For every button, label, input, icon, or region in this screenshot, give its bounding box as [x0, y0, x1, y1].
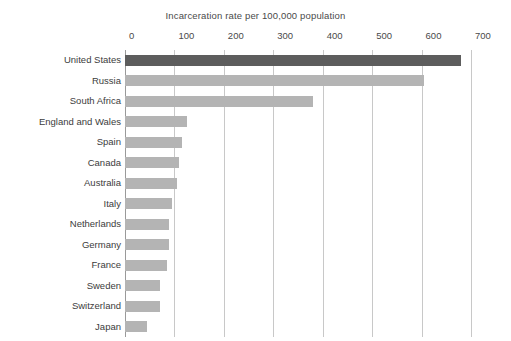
bar-canada: [125, 157, 179, 168]
y-label-england-and-wales: England and Wales: [39, 117, 121, 127]
y-label-australia: Australia: [84, 178, 121, 188]
bar-australia: [125, 178, 177, 189]
bar-switzerland: [125, 301, 160, 312]
x-tick-label-100: 100: [178, 30, 194, 41]
x-tick-label-600: 600: [426, 30, 442, 41]
x-tick-label-500: 500: [376, 30, 392, 41]
gridline-700: [471, 50, 472, 337]
bar-sweden: [125, 280, 160, 291]
bar-netherlands: [125, 219, 169, 230]
plot-area: [125, 50, 471, 337]
x-tick-label-300: 300: [277, 30, 293, 41]
bar-spain: [125, 137, 182, 148]
x-tick-label-0: 0: [129, 30, 134, 41]
bar-germany: [125, 239, 169, 250]
x-axis-tick-labels: 0100200300400500600700: [125, 30, 471, 48]
incarceration-rate-bar-chart: Incarceration rate per 100,000 populatio…: [0, 0, 511, 341]
x-tick-label-200: 200: [228, 30, 244, 41]
y-label-russia: Russia: [92, 76, 121, 86]
y-label-sweden: Sweden: [87, 281, 121, 291]
bar-italy: [125, 198, 172, 209]
x-tick-label-400: 400: [327, 30, 343, 41]
y-label-south-africa: South Africa: [70, 96, 121, 106]
bar-series: [125, 50, 471, 337]
chart-title: Incarceration rate per 100,000 populatio…: [0, 10, 511, 21]
bar-united-states: [125, 55, 461, 66]
bar-japan: [125, 321, 147, 332]
y-label-france: France: [91, 260, 121, 270]
bar-south-africa: [125, 96, 313, 107]
y-label-germany: Germany: [82, 240, 121, 250]
bar-russia: [125, 75, 424, 86]
y-axis-category-labels: United StatesRussiaSouth AfricaEngland a…: [0, 50, 121, 337]
y-label-spain: Spain: [97, 137, 121, 147]
y-label-japan: Japan: [95, 322, 121, 332]
x-tick-label-700: 700: [475, 30, 491, 41]
y-label-switzerland: Switzerland: [72, 301, 121, 311]
bar-france: [125, 260, 167, 271]
y-label-united-states: United States: [64, 55, 121, 65]
bar-england-and-wales: [125, 116, 187, 127]
y-label-netherlands: Netherlands: [70, 219, 121, 229]
y-label-canada: Canada: [88, 158, 121, 168]
y-label-italy: Italy: [104, 199, 121, 209]
